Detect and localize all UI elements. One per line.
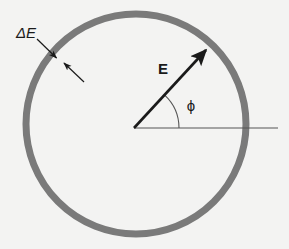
e-vector-label: E [158, 60, 168, 77]
phi-angle-label: ϕ [187, 97, 195, 114]
phasor-diagram-svg: ΔE E ϕ [0, 0, 289, 249]
delta-e-label: ΔE [15, 24, 37, 41]
figure-container: ΔE E ϕ [0, 0, 289, 249]
